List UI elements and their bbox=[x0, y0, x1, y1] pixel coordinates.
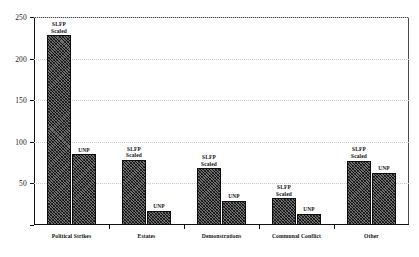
bar-other-unp: UNP bbox=[372, 173, 396, 225]
y-tick-label-50: 50 bbox=[19, 179, 27, 188]
bar-label-slfp-scaled: SLFP Scaled bbox=[351, 146, 367, 160]
y-tick-150 bbox=[30, 100, 34, 101]
bar-demonstrations-slfp-scaled: SLFP Scaled bbox=[197, 168, 221, 225]
x-axis-label-demonstrations: Demonstrations bbox=[202, 233, 241, 239]
bar-label-slfp-scaled: SLFP Scaled bbox=[126, 146, 142, 160]
bar-chart: 50100150200250 Political StrikesEstatesD… bbox=[0, 0, 419, 257]
bar-label-unp: UNP bbox=[303, 206, 315, 213]
x-tick-2 bbox=[184, 225, 185, 229]
y-tick-label-150: 150 bbox=[15, 96, 27, 105]
plot-right-border bbox=[408, 17, 409, 225]
bar-label-slfp-scaled: SLFP Scaled bbox=[276, 184, 292, 198]
x-axis-label-estates: Estates bbox=[138, 233, 156, 239]
x-tick-3 bbox=[259, 225, 260, 229]
gridline-200 bbox=[34, 59, 409, 60]
bar-label-slfp-scaled: SLFP Scaled bbox=[51, 21, 67, 35]
bar-political-strikes-slfp-scaled: SLFP Scaled bbox=[47, 35, 71, 225]
plot-area: 50100150200250 Political StrikesEstatesD… bbox=[34, 17, 409, 225]
bar-communal-conflict-unp: UNP bbox=[297, 214, 321, 225]
y-tick-50 bbox=[30, 183, 34, 184]
x-axis-label-communal-conflict: Communal Conflict bbox=[272, 233, 321, 239]
bar-label-unp: UNP bbox=[153, 203, 165, 210]
gridline-150 bbox=[34, 100, 409, 101]
bar-label-unp: UNP bbox=[78, 147, 90, 154]
y-tick-200 bbox=[30, 59, 34, 60]
y-tick-250 bbox=[30, 17, 34, 18]
y-tick-label-250: 250 bbox=[15, 13, 27, 22]
y-tick-label-100: 100 bbox=[15, 137, 27, 146]
x-axis-label-political-strikes: Political Strikes bbox=[52, 233, 91, 239]
gridline-250 bbox=[34, 17, 409, 18]
bar-estates-slfp-scaled: SLFP Scaled bbox=[122, 160, 146, 225]
y-tick-label-200: 200 bbox=[15, 54, 27, 63]
bar-label-unp: UNP bbox=[378, 165, 390, 172]
bar-label-unp: UNP bbox=[228, 193, 240, 200]
bar-estates-unp: UNP bbox=[147, 211, 171, 225]
y-tick-0 bbox=[30, 225, 34, 226]
x-tick-4 bbox=[334, 225, 335, 229]
bar-label-slfp-scaled: SLFP Scaled bbox=[201, 154, 217, 168]
bar-political-strikes-unp: UNP bbox=[72, 154, 96, 225]
y-tick-100 bbox=[30, 142, 34, 143]
bar-other-slfp-scaled: SLFP Scaled bbox=[347, 161, 371, 225]
x-axis-label-other: Other bbox=[364, 233, 379, 239]
y-axis-line bbox=[34, 17, 35, 225]
bar-communal-conflict-slfp-scaled: SLFP Scaled bbox=[272, 198, 296, 225]
bar-demonstrations-unp: UNP bbox=[222, 201, 246, 225]
x-tick-1 bbox=[109, 225, 110, 229]
gridline-100 bbox=[34, 142, 409, 143]
